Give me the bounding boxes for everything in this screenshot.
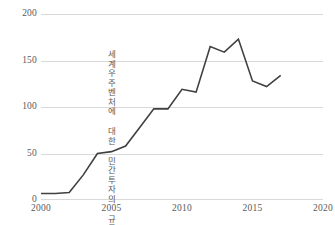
x-tick-label-2015: 2015 <box>233 204 273 214</box>
x-tick-label-2020: 2020 <box>303 204 335 214</box>
series-annotation-label: 세계우주벤처에 대한 민간투자의 규모 <box>102 50 116 225</box>
y-tick-label-50: 50 <box>5 149 37 159</box>
y-tick-label-150: 150 <box>5 56 37 66</box>
y-tick-label-200: 200 <box>5 9 37 19</box>
x-tick-label-2010: 2010 <box>162 204 202 214</box>
plot-area: 세계우주벤처에 대한 민간투자의 규모 <box>41 14 323 200</box>
series-line-chart <box>41 14 323 200</box>
chart-container: 100만 달러(2018년) 200 150 100 50 0 2000 200… <box>0 0 335 225</box>
x-tick-label-2000: 2000 <box>21 204 61 214</box>
series-line-path <box>41 39 281 193</box>
y-tick-label-100: 100 <box>5 102 37 112</box>
